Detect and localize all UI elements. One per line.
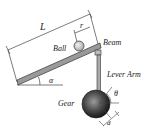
gear-angle-label: θ — [114, 89, 118, 98]
beam-angle-label: α — [49, 76, 54, 85]
ball — [74, 41, 84, 51]
lever-arm-label: Lever Arm — [106, 70, 141, 79]
alpha-arc — [39, 77, 41, 85]
beam-label: Beam — [103, 38, 121, 47]
ball-position-label: r — [80, 21, 84, 30]
beam-pivot-joint — [95, 50, 101, 55]
length-label: L — [39, 21, 46, 32]
gear-label: Gear — [58, 99, 75, 108]
ball-label: Ball — [53, 44, 67, 53]
ball-beam-diagram: L r α Beam Ball Lever Arm Gear θ d — [0, 0, 158, 137]
lever-offset-label: d — [107, 119, 111, 127]
